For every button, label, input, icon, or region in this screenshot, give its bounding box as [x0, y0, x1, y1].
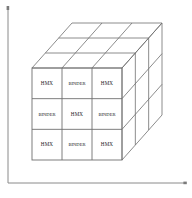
cube-right-face: [122, 23, 162, 160]
cell-label-r2c1: BINDER: [68, 142, 86, 147]
cell-label-r0c1: BINDER: [68, 81, 86, 86]
cell-label-r1c0: BINDER: [38, 112, 56, 117]
cell-label-r2c0: HMX: [41, 141, 54, 147]
cell-label-r0c0: HMX: [41, 80, 54, 86]
top-face-col-line-1: [62, 23, 102, 68]
top-face-col-line-2: [92, 23, 132, 68]
figure-container: HMX BINDER HMX BINDER HMX BINDER HMX BIN…: [0, 0, 192, 198]
cell-label-r1c2: BINDER: [98, 112, 116, 117]
cell-label-r2c2: HMX: [101, 141, 114, 147]
axis-frame: [7, 6, 187, 184]
right-face-row-line-1: [122, 54, 162, 99]
horizontal-axis-end-marker: [183, 182, 186, 185]
cube-diagram: HMX BINDER HMX BINDER HMX BINDER HMX BIN…: [0, 0, 192, 198]
right-face-row-line-2: [122, 84, 162, 129]
cell-label-r1c1: HMX: [71, 111, 84, 117]
cell-label-r0c2: HMX: [101, 80, 114, 86]
front-face-labels: HMX BINDER HMX BINDER HMX BINDER HMX BIN…: [38, 80, 116, 147]
vertical-axis-end-marker: [7, 6, 10, 10]
